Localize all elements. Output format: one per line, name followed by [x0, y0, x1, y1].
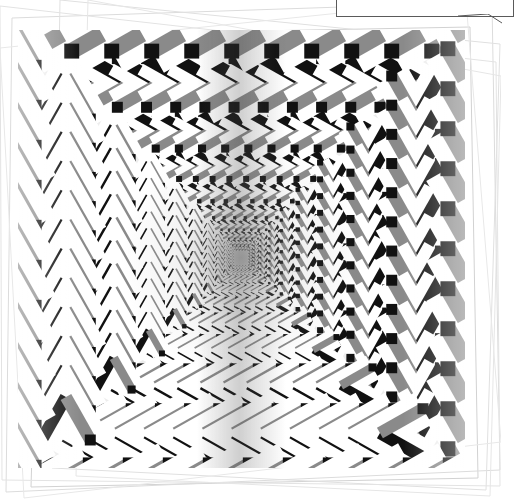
caption-callout: move less than the dark: [336, 0, 514, 17]
chevron-illusion-canvas: [18, 30, 465, 468]
caption-text: move less than the dark: [343, 0, 509, 1]
illusion-figure-panel: [18, 30, 465, 468]
